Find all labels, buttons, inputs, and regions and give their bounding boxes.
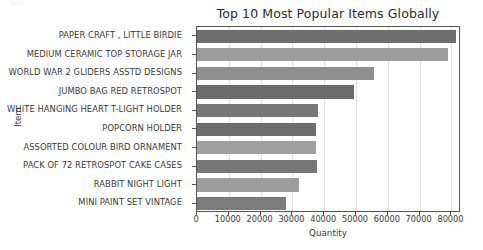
- bar-row: [197, 46, 461, 64]
- y-tick-mark: [192, 91, 196, 92]
- y-tick-mark: [192, 203, 196, 204]
- chart-title: Top 10 Most Popular Items Globally: [196, 6, 460, 21]
- x-tick-mark: [387, 212, 388, 215]
- x-tick-label: 70000: [406, 214, 432, 224]
- y-tick-label: JUMBO BAG RED RETROSPOT: [59, 82, 182, 100]
- bar-row: [197, 101, 461, 119]
- y-tick-mark: [192, 184, 196, 185]
- y-tick-label: POPCORN HOLDER: [102, 119, 182, 137]
- bar[interactable]: [197, 123, 316, 136]
- y-tick-label: MINI PAINT SET VINTAGE: [78, 193, 182, 211]
- bar[interactable]: [197, 178, 299, 191]
- bar-chart-figure: Top 10 Most Popular Items Globally PAPER…: [0, 0, 483, 250]
- plot-area: [196, 26, 460, 212]
- bar-row: [197, 176, 461, 194]
- x-tick-label: 20000: [247, 214, 273, 224]
- y-tick-mark: [192, 166, 196, 167]
- bar[interactable]: [197, 67, 374, 80]
- bars-group: [197, 27, 459, 211]
- bar-row: [197, 120, 461, 138]
- x-tick-mark: [419, 212, 420, 215]
- bar-row: [197, 139, 461, 157]
- bar-row: [197, 83, 461, 101]
- bar[interactable]: [197, 104, 318, 117]
- x-tick-mark: [228, 212, 229, 215]
- y-tick-mark: [192, 54, 196, 55]
- x-tick-label: 50000: [342, 214, 368, 224]
- bar[interactable]: [197, 160, 317, 173]
- bar-row: [197, 157, 461, 175]
- bar-row: [197, 27, 461, 45]
- y-tick-label: RABBIT NIGHT LIGHT: [94, 175, 182, 193]
- x-tick-mark: [260, 212, 261, 215]
- bar[interactable]: [197, 141, 316, 154]
- x-tick-label: 80000: [437, 214, 463, 224]
- y-axis-title: Item: [13, 87, 23, 147]
- bar-row: [197, 64, 461, 82]
- bar[interactable]: [197, 197, 286, 210]
- y-tick-label: PACK OF 72 RETROSPOT CAKE CASES: [23, 156, 182, 174]
- bar[interactable]: [197, 30, 456, 43]
- y-tick-mark: [192, 128, 196, 129]
- x-axis-tick-labels: 0100002000030000400005000060000700008000…: [196, 214, 460, 228]
- y-tick-label: WHITE HANGING HEART T-LIGHT HOLDER: [7, 100, 182, 118]
- bar[interactable]: [197, 48, 448, 61]
- x-tick-mark: [355, 212, 356, 215]
- x-tick-label: 0: [193, 214, 198, 224]
- x-tick-mark: [291, 212, 292, 215]
- y-tick-label: ASSORTED COLOUR BIRD ORNAMENT: [23, 138, 182, 156]
- y-tick-mark: [192, 110, 196, 111]
- y-tick-mark: [192, 35, 196, 36]
- x-tick-mark: [450, 212, 451, 215]
- x-tick-label: 60000: [374, 214, 400, 224]
- x-tick-mark: [196, 212, 197, 215]
- bar[interactable]: [197, 85, 354, 98]
- x-tick-label: 30000: [278, 214, 304, 224]
- x-tick-label: 10000: [215, 214, 241, 224]
- x-tick-mark: [323, 212, 324, 215]
- x-tick-label: 40000: [310, 214, 336, 224]
- y-tick-mark: [192, 147, 196, 148]
- x-axis-title: Quantity: [196, 228, 460, 238]
- y-tick-label: PAPER CRAFT , LITTLE BIRDIE: [59, 26, 182, 44]
- y-tick-label: WORLD WAR 2 GLIDERS ASSTD DESIGNS: [9, 63, 183, 81]
- y-axis-tick-labels: PAPER CRAFT , LITTLE BIRDIEMEDIUM CERAMI…: [0, 26, 190, 212]
- corner-artifact: [10, 1, 24, 6]
- y-tick-mark: [192, 73, 196, 74]
- bar-row: [197, 194, 461, 212]
- y-tick-label: MEDIUM CERAMIC TOP STORAGE JAR: [27, 45, 182, 63]
